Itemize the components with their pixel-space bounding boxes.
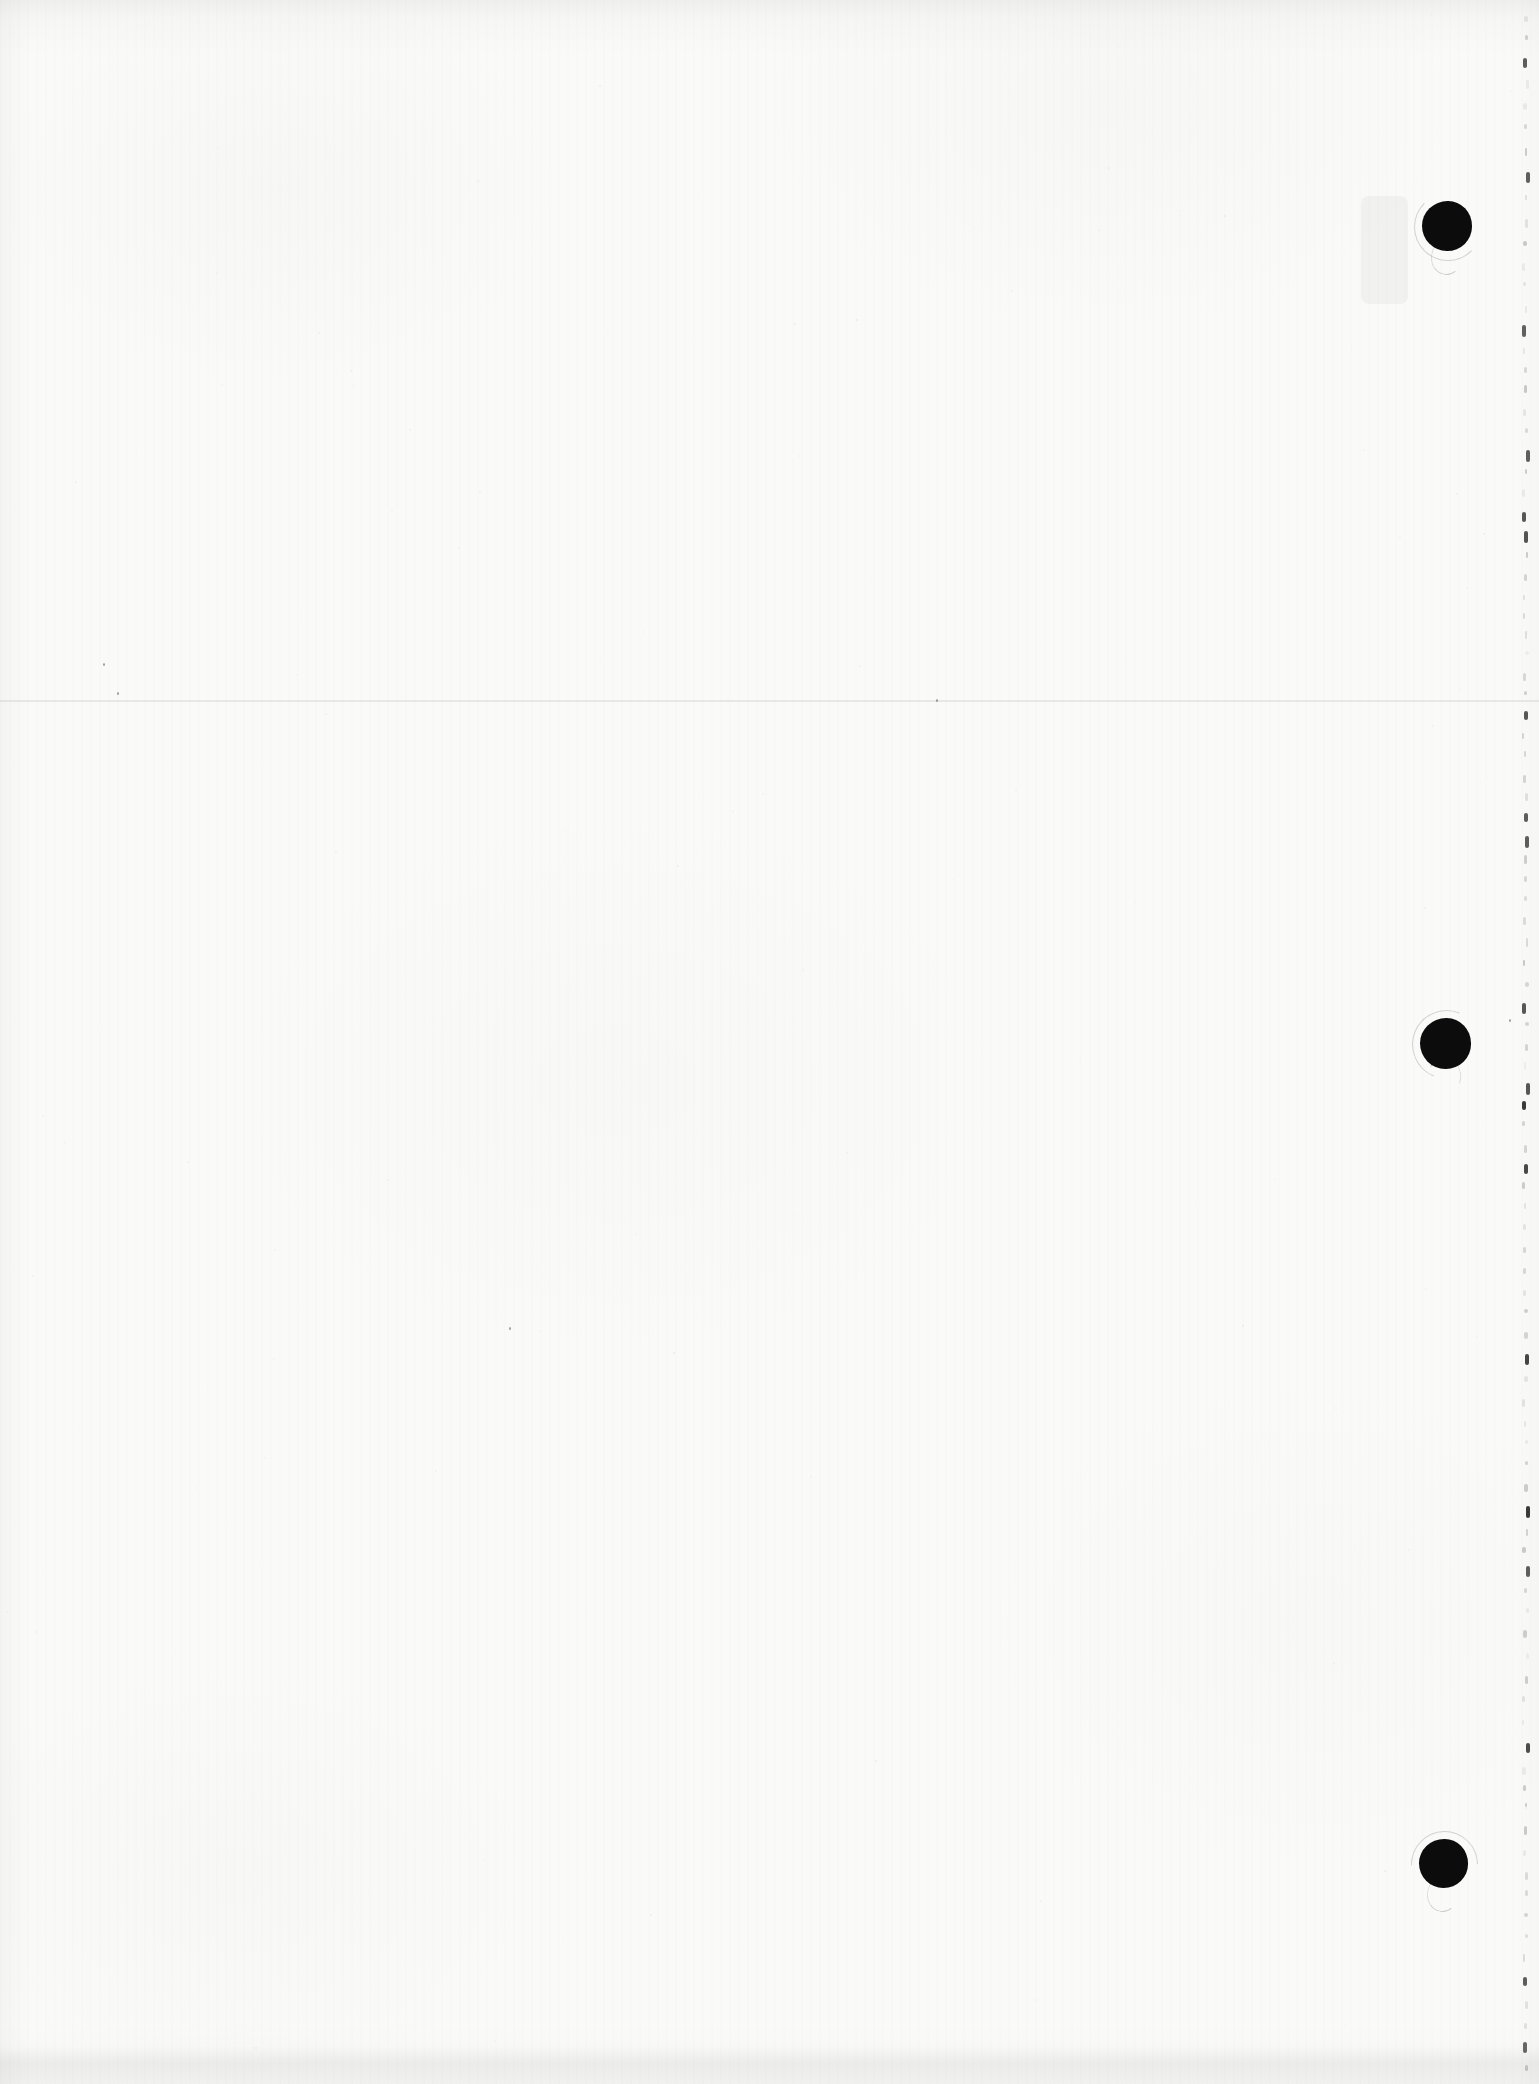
edge-bleed-mark — [1526, 80, 1530, 89]
scan-noise-speck — [635, 1233, 637, 1235]
scan-noise-speck — [802, 969, 804, 971]
scan-noise-speck — [429, 1896, 430, 1897]
scan-noise-speck — [1456, 493, 1458, 495]
scan-noise-speck — [1155, 401, 1156, 402]
scan-noise-speck — [607, 332, 609, 334]
scan-noise-speck — [1459, 689, 1461, 691]
scan-noise-speck — [1134, 901, 1136, 903]
scan-noise-speck — [830, 849, 831, 850]
scan-noise-speck — [875, 1760, 877, 1762]
edge-bleed-mark — [1526, 1608, 1529, 1613]
scan-noise-speck — [1384, 1870, 1386, 1872]
scan-noise-speck — [727, 699, 729, 701]
scan-noise-speck — [1151, 129, 1152, 130]
scan-bottom-edge-shading — [0, 2046, 1539, 2084]
scan-noise-speck — [32, 1275, 34, 1277]
scan-noise-speck — [450, 1103, 451, 1104]
scan-noise-speck — [178, 131, 179, 132]
scan-noise-speck — [195, 1487, 197, 1489]
scan-noise-speck — [1083, 1943, 1085, 1945]
scan-noise-speck — [300, 1307, 301, 1308]
scan-noise-speck — [643, 631, 645, 633]
edge-bleed-mark — [1524, 1062, 1526, 1070]
edge-bleed-mark — [1524, 124, 1527, 129]
edge-bleed-mark — [1522, 325, 1526, 337]
scan-noise-speck — [677, 865, 679, 867]
scan-noise-speck — [1224, 215, 1226, 217]
scan-noise-speck — [742, 1951, 743, 1952]
edge-bleed-mark — [1524, 896, 1527, 901]
scan-noise-speck — [688, 342, 689, 343]
dust-speck — [936, 699, 938, 702]
scan-noise-speck — [228, 1524, 229, 1525]
edge-bleed-mark — [1523, 673, 1525, 681]
scan-noise-speck — [268, 1836, 269, 1837]
dust-speck — [1509, 1019, 1511, 1022]
scan-noise-speck — [585, 1250, 586, 1251]
edge-bleed-mark — [1522, 1182, 1525, 1189]
hole-punch-dot — [1420, 1018, 1471, 1069]
scan-noise-speck — [1491, 1575, 1493, 1577]
scan-noise-speck — [564, 859, 565, 860]
scan-noise-speck — [477, 180, 479, 182]
faint-smudge — [1361, 196, 1408, 304]
scan-noise-speck — [203, 319, 205, 321]
edge-bleed-mark — [1523, 775, 1525, 783]
scan-noise-speck — [1525, 1807, 1527, 1809]
scan-noise-speck — [798, 455, 800, 457]
scan-noise-speck — [216, 272, 218, 274]
scan-noise-speck — [859, 665, 861, 667]
edge-bleed-mark — [1524, 1164, 1528, 1174]
scan-noise-speck — [1355, 1548, 1356, 1549]
scan-noise-speck — [1015, 790, 1017, 792]
scan-noise-speck — [1309, 1606, 1310, 1607]
edge-bleed-mark — [1526, 172, 1530, 183]
edge-bleed-mark — [1523, 1785, 1525, 1791]
scan-noise-speck — [870, 579, 871, 580]
scan-noise-speck — [737, 547, 738, 548]
edge-bleed-mark — [1524, 1376, 1527, 1382]
scan-noise-speck — [808, 110, 809, 111]
scan-noise-speck — [564, 831, 566, 833]
edge-bleed-mark — [1525, 469, 1528, 474]
scan-noise-speck — [142, 448, 143, 449]
scan-noise-speck — [595, 1191, 596, 1192]
edge-bleed-mark — [1523, 58, 1527, 68]
scan-noise-speck — [6, 1611, 8, 1613]
edge-bleed-mark — [1522, 1121, 1525, 1126]
scan-noise-speck — [291, 1485, 292, 1486]
scan-noise-speck — [75, 481, 77, 483]
scan-noise-speck — [42, 1572, 43, 1573]
scan-noise-speck — [391, 510, 393, 512]
edge-bleed-mark — [1525, 793, 1528, 801]
scan-noise-speck — [458, 547, 460, 549]
scan-noise-speck — [613, 25, 614, 26]
scan-noise-speck — [1346, 774, 1347, 775]
scan-noise-speck — [830, 1899, 831, 1900]
scan-noise-speck — [78, 1425, 79, 1426]
edge-bleed-mark — [1523, 1850, 1526, 1856]
scan-noise-speck — [207, 1391, 208, 1392]
edge-bleed-mark — [1523, 348, 1525, 354]
scan-noise-speck — [353, 384, 355, 386]
scan-noise-speck — [846, 1152, 848, 1154]
scan-noise-speck — [1002, 1322, 1003, 1323]
scan-noise-speck — [668, 1060, 670, 1062]
scan-noise-speck — [175, 1655, 176, 1656]
scan-noise-speck — [1290, 373, 1291, 374]
edge-bleed-mark — [1524, 711, 1528, 720]
scan-noise-speck — [1480, 782, 1481, 783]
edge-bleed-mark — [1523, 613, 1525, 619]
scan-noise-speck — [830, 1649, 831, 1650]
edge-bleed-mark — [1524, 1145, 1528, 1153]
scan-noise-speck — [1098, 229, 1100, 231]
scan-noise-speck — [1180, 215, 1181, 216]
edge-bleed-mark — [1522, 1696, 1524, 1702]
scan-noise-speck — [1166, 1075, 1167, 1076]
scan-noise-speck — [387, 1179, 389, 1181]
edge-bleed-mark — [1526, 1653, 1530, 1659]
scan-noise-speck — [1131, 494, 1132, 495]
scan-noise-speck — [1166, 1361, 1167, 1362]
scan-noise-speck — [42, 1115, 44, 1117]
scan-noise-speck — [217, 147, 219, 149]
